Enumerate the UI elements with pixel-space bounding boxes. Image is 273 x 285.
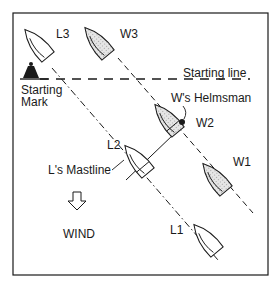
w-helmsman-leader: [183, 106, 186, 119]
label-l1: L1: [170, 223, 184, 237]
label-l3: L3: [56, 27, 70, 41]
boat-l1-icon: [187, 219, 223, 257]
boat-l2-icon: [118, 140, 154, 178]
label-wind: WIND: [63, 227, 95, 241]
l-mastline-leader: [112, 160, 124, 170]
label-starting-line: Starting line: [183, 66, 247, 80]
label-w3: W3: [120, 27, 138, 41]
boat-w3-icon: [78, 22, 114, 60]
wind-arrow-icon: [68, 192, 86, 210]
starting-mark-icon: [20, 62, 48, 79]
label-w2: W2: [196, 116, 214, 130]
label-w1: W1: [233, 155, 251, 169]
label-l-mastline: L's Mastline: [48, 163, 111, 177]
boat-l3-icon: [18, 24, 54, 62]
label-w-helmsman: W's Helmsman: [171, 91, 251, 105]
label-l2: L2: [107, 138, 121, 152]
w-helmsman-icon: [179, 119, 185, 125]
w-course-line: [118, 58, 253, 213]
sailing-rule-diagram: L3 W3 Starting Mark Starting line W's He…: [0, 0, 273, 285]
label-starting-mark-2: Mark: [21, 95, 49, 109]
boat-w1-icon: [196, 158, 232, 196]
